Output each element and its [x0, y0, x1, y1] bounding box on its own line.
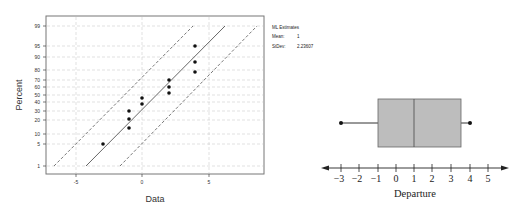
y-tick-label: 1 [37, 163, 40, 169]
y-tick-label: 60 [34, 84, 40, 90]
upper-confidence-band [54, 26, 193, 166]
tick-label: −2 [352, 173, 363, 184]
tick-label: −3 [334, 173, 345, 184]
data-point [127, 126, 131, 130]
data-point [193, 44, 197, 48]
data-point [140, 102, 144, 106]
x-tick-label: 0 [141, 179, 144, 185]
max-point [468, 121, 472, 125]
tick-label: −1 [371, 173, 382, 184]
x-tick-label: -5 [74, 179, 79, 185]
data-point [193, 70, 197, 74]
y-tick-label: 50 [34, 92, 40, 98]
y-tick-label: 90 [34, 54, 40, 60]
stdev-value: 2.23607 [297, 44, 314, 49]
data-point [127, 117, 131, 121]
y-tick-label: 30 [34, 108, 40, 114]
tick-label: 5 [486, 173, 491, 184]
lower-confidence-band [120, 26, 257, 166]
x-axis-title: Data [145, 194, 164, 204]
y-tick-label: 10 [34, 131, 40, 137]
mean-value: 1 [297, 34, 300, 39]
stdev-label: StDev: [272, 44, 286, 49]
number-line-labels: −3 −2 −1 0 1 2 3 4 5 [334, 173, 491, 184]
x-axis-title: Departure [394, 188, 436, 199]
tick-label: 0 [394, 173, 399, 184]
fitted-line [86, 26, 225, 166]
ml-estimates-legend: ML Estimates Mean: 1 StDev: 2.23607 [272, 25, 314, 49]
data-point [193, 60, 197, 64]
y-tick-label: 40 [34, 99, 40, 105]
y-tick-labels: 99 95 90 80 70 60 50 40 30 20 10 5 1 [34, 23, 40, 169]
x-tick-label: 5 [208, 179, 211, 185]
iqr-box [378, 99, 461, 147]
figure: 99 95 90 80 70 60 50 40 30 20 10 5 1 -5 … [0, 0, 521, 215]
mean-label: Mean: [272, 34, 285, 39]
data-point [167, 85, 171, 89]
left-arrow-icon [321, 166, 329, 171]
right-arrow-icon [501, 166, 509, 171]
tick-label: 2 [430, 173, 435, 184]
y-tick-label: 95 [34, 43, 40, 49]
data-point [167, 91, 171, 95]
probability-plot: 99 95 90 80 70 60 50 40 30 20 10 5 1 -5 … [14, 16, 314, 204]
data-point [101, 142, 105, 146]
tick-label: 1 [412, 173, 417, 184]
y-tick-label: 5 [37, 141, 40, 147]
x-tick-labels: -5 0 5 [74, 179, 211, 185]
data-point [140, 96, 144, 100]
y-tick-label: 80 [34, 67, 40, 73]
y-axis-title: Percent [14, 79, 24, 111]
stats-heading: ML Estimates [272, 25, 300, 30]
tick-label: 3 [449, 173, 454, 184]
tick-label: 4 [468, 173, 473, 184]
box-plot: −3 −2 −1 0 1 2 3 4 5 Departure [321, 99, 509, 199]
data-point [127, 109, 131, 113]
data-point [167, 78, 171, 82]
y-tick-label: 20 [34, 117, 40, 123]
y-tick-label: 99 [34, 23, 40, 29]
y-tick-label: 70 [34, 77, 40, 83]
min-point [339, 121, 343, 125]
